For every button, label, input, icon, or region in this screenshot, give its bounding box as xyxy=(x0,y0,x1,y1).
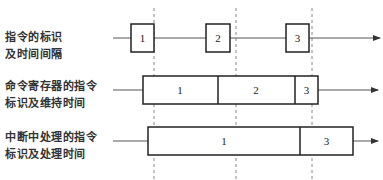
box-number: 1 xyxy=(140,32,146,44)
row-instruction-intervals: 1 2 3 xyxy=(113,24,380,52)
segment-number: 3 xyxy=(324,135,330,147)
box-number: 3 xyxy=(295,32,301,44)
segment-number: 3 xyxy=(304,84,310,96)
segment-number: 2 xyxy=(253,84,259,96)
row-command-register: 1 2 3 xyxy=(113,76,378,104)
processing-bar xyxy=(148,127,353,155)
register-bar xyxy=(143,76,318,104)
box-number: 2 xyxy=(215,32,221,44)
segment-number: 1 xyxy=(177,84,183,96)
segment-number: 1 xyxy=(221,135,227,147)
row-interrupt-processing: 1 3 xyxy=(113,127,378,155)
timing-diagram: 1 2 3 1 2 3 1 3 xyxy=(0,0,383,180)
